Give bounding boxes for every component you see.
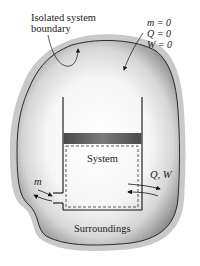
boundary-label-line1: Isolated system	[31, 12, 96, 23]
work-zero: W = 0	[147, 39, 172, 50]
piston	[64, 133, 142, 144]
surroundings-label: Surroundings	[74, 223, 131, 234]
boundary-label: Isolated system boundary	[31, 12, 96, 34]
conditions-label: m = 0 Q = 0 W = 0	[147, 17, 172, 50]
mass-flow-label: m	[34, 176, 42, 187]
boundary-label-line2: boundary	[31, 23, 96, 34]
system-label: System	[87, 153, 118, 164]
energy-label: Q, W	[150, 169, 172, 180]
mass-zero: m = 0	[147, 17, 172, 28]
heat-zero: Q = 0	[147, 28, 172, 39]
